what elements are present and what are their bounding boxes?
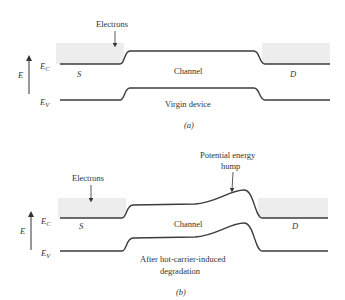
virgin-device-label: Virgin device: [165, 99, 211, 109]
band-diagram-svg: E EC EV Electrons S Channel D Virgin dev…: [0, 0, 345, 300]
electrons-label: Electrons: [72, 173, 104, 183]
electrons-label: Electrons: [96, 19, 128, 29]
drain-label: D: [291, 221, 299, 231]
ec-label: EC: [40, 216, 51, 227]
electron-region-source: [58, 198, 126, 218]
electron-region-drain: [258, 198, 328, 218]
source-label: S: [77, 69, 82, 79]
panel-b: E EC EV Electrons Potential energy hump …: [19, 150, 328, 297]
device-label-line1: After hot-carrier-induced: [140, 254, 226, 264]
source-label: S: [79, 221, 84, 231]
energy-axis-label: E: [19, 226, 26, 236]
hump-arrow: [232, 172, 233, 190]
energy-axis-label: E: [17, 70, 24, 80]
hump-label-line1: Potential energy: [200, 150, 256, 160]
electron-region-source: [56, 43, 124, 64]
panel-a: E EC EV Electrons S Channel D Virgin dev…: [17, 19, 330, 130]
band-diagram-figure: E EC EV Electrons S Channel D Virgin dev…: [0, 0, 345, 300]
ec-label: EC: [39, 61, 50, 72]
ev-label: EV: [39, 97, 50, 108]
electron-region-drain: [262, 43, 330, 64]
hump-label-line2: hump: [221, 161, 240, 171]
channel-label: Channel: [174, 219, 203, 229]
drain-label: D: [289, 69, 297, 79]
caption-a: (a): [184, 120, 194, 130]
caption-b: (b): [176, 287, 186, 297]
device-label-line2: degradation: [160, 266, 201, 276]
ev-label: EV: [40, 248, 51, 259]
channel-label: Channel: [174, 66, 203, 76]
